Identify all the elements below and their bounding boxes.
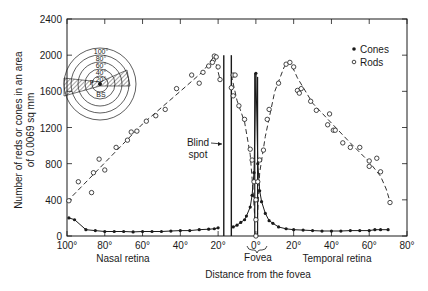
rod-point <box>216 65 220 69</box>
cones-curve-nasal <box>69 218 218 232</box>
rod-point <box>163 107 167 111</box>
rod-point <box>218 77 222 81</box>
temporal-retina-label: Temporal retina <box>303 253 372 264</box>
rod-point <box>97 157 101 161</box>
cone-point <box>150 230 153 233</box>
y-tick-label: 2000 <box>40 50 63 61</box>
inset-ring-label: 40° <box>96 69 107 76</box>
rod-point <box>348 145 352 149</box>
x-tick-label: 80° <box>399 240 414 251</box>
cone-point <box>277 225 280 228</box>
cone-point <box>207 228 210 231</box>
cone-point <box>141 230 144 233</box>
x-axis-label: Distance from the fovea <box>205 269 311 280</box>
plot-frame <box>67 19 407 236</box>
rod-point <box>189 73 193 77</box>
x-tick-label: 0° <box>251 240 261 251</box>
cone-point <box>169 229 172 232</box>
cone-point <box>264 212 267 215</box>
cone-point <box>122 230 125 233</box>
cone-point <box>232 225 235 228</box>
rod-point <box>201 70 205 74</box>
cone-point <box>160 230 163 233</box>
blind-spot-label-line1: Blind <box>187 137 209 148</box>
rod-point <box>388 200 392 204</box>
inset-fovea-label: F <box>90 79 94 86</box>
cone-point <box>254 72 257 75</box>
rod-point <box>333 128 337 132</box>
rod-point <box>250 158 254 162</box>
rod-point <box>297 91 301 95</box>
rod-point <box>129 130 133 134</box>
rod-point <box>375 156 379 160</box>
rod-point <box>89 190 93 194</box>
rods-legend-label: Rods <box>360 57 383 68</box>
cone-point <box>387 228 390 231</box>
cone-point <box>252 171 255 174</box>
nasal-retina-label: Nasal retina <box>96 253 150 264</box>
rod-point <box>114 145 118 149</box>
cone-point <box>217 226 220 229</box>
rod-point <box>242 117 246 121</box>
x-tick-label: 20° <box>286 240 301 251</box>
rod-point <box>210 60 214 64</box>
rod-point <box>154 114 158 118</box>
y-axis-label-line2: of 0.0069 sq mm <box>25 93 36 167</box>
rod-point <box>233 73 237 77</box>
cone-point <box>285 227 288 230</box>
rod-point <box>144 119 148 123</box>
cone-point <box>256 162 259 165</box>
cone-point <box>213 227 216 230</box>
rod-point <box>91 171 95 175</box>
rod-point <box>214 55 218 59</box>
y-tick-label: 0 <box>56 231 62 242</box>
legend: Cones Rods <box>352 44 389 68</box>
rods-cones-density-chart: 100°80°60°40°20°0°20°40°60°80°0400800120… <box>0 0 428 291</box>
rod-point <box>261 148 265 152</box>
rods-trend-nasal <box>67 56 220 202</box>
cone-point <box>73 218 76 221</box>
cone-point <box>339 229 342 232</box>
cone-point <box>330 229 333 232</box>
y-axis-label-line1: Number of reds or cones in an area <box>13 51 24 209</box>
cone-point <box>373 228 376 231</box>
y-tick-label: 1600 <box>40 86 63 97</box>
rod-point <box>341 141 345 145</box>
cone-point <box>358 229 361 232</box>
rod-point <box>257 158 261 162</box>
x-tick-label: 60° <box>135 240 150 251</box>
cone-point <box>188 229 191 232</box>
rod-point <box>367 159 371 163</box>
rod-point <box>308 99 312 103</box>
rod-point <box>299 86 303 90</box>
cone-point <box>268 219 271 222</box>
rod-point <box>76 180 80 184</box>
arrow-head-icon <box>218 142 222 146</box>
rod-point <box>229 86 233 90</box>
y-tick-label: 1200 <box>40 123 63 134</box>
cone-point <box>198 228 201 231</box>
rod-point <box>231 94 235 98</box>
cone-point <box>379 228 382 231</box>
rod-point <box>135 129 139 133</box>
rod-point <box>291 65 295 69</box>
y-tick-label: 2400 <box>40 14 63 25</box>
rod-point <box>256 180 260 184</box>
rod-point <box>125 138 129 142</box>
rod-point <box>67 199 71 203</box>
retina-inset-diagram: 100°80°60°40°20°FBS <box>64 48 136 120</box>
rod-point <box>248 147 252 151</box>
cone-point <box>292 228 295 231</box>
cone-point <box>103 230 106 233</box>
rod-point <box>103 168 107 172</box>
rod-point <box>174 86 178 90</box>
cone-point <box>302 229 305 232</box>
cone-point <box>260 200 263 203</box>
rod-point <box>327 112 331 116</box>
cone-point <box>113 230 116 233</box>
rod-point <box>314 108 318 112</box>
cone-point <box>245 215 248 218</box>
x-tick-label: 80° <box>97 240 112 251</box>
rod-point <box>288 60 292 64</box>
cone-point <box>239 221 242 224</box>
